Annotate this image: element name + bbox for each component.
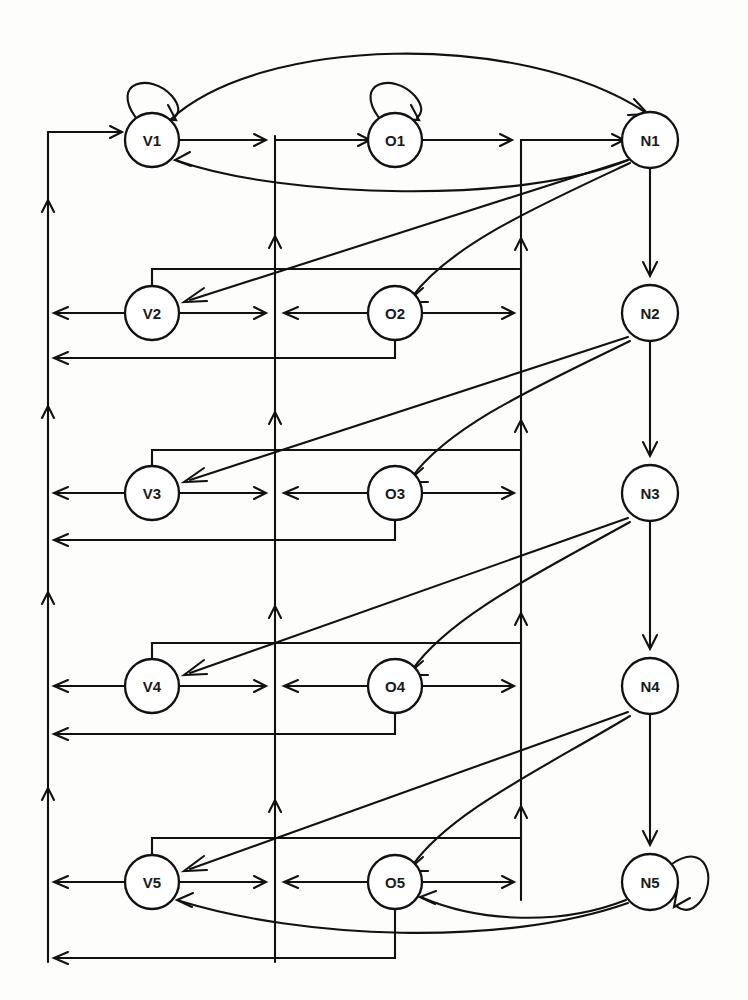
- node-O4[interactable]: O4: [368, 659, 422, 713]
- node-V1[interactable]: V1: [125, 113, 179, 167]
- node-label: V1: [143, 132, 161, 149]
- node-N3[interactable]: N3: [622, 465, 678, 521]
- node-label: N2: [640, 305, 659, 322]
- edge-n3-v4: [190, 518, 628, 673]
- node-V2[interactable]: V2: [125, 286, 179, 340]
- node-O3[interactable]: O3: [368, 466, 422, 520]
- edge-o5-to-left-bus: [56, 909, 395, 958]
- node-N2[interactable]: N2: [622, 285, 678, 341]
- node-label: O1: [385, 132, 405, 149]
- edge-o2-to-left-bus: [56, 340, 395, 358]
- node-label: V2: [143, 305, 161, 322]
- node-O2[interactable]: O2: [368, 286, 422, 340]
- node-V3[interactable]: V3: [125, 466, 179, 520]
- node-label: N1: [640, 132, 659, 149]
- node-O1[interactable]: O1: [368, 113, 422, 167]
- edge-o3-to-left-bus: [56, 520, 395, 540]
- node-label: V3: [143, 485, 161, 502]
- node-label: O5: [385, 874, 405, 891]
- edge-bus-to-v4-top: [152, 643, 521, 659]
- node-label: N5: [640, 874, 659, 891]
- node-label: N4: [640, 678, 660, 695]
- edge-v1-n1-arc: [170, 54, 645, 120]
- node-N4[interactable]: N4: [622, 658, 678, 714]
- node-label: N3: [640, 485, 659, 502]
- node-V4[interactable]: V4: [125, 659, 179, 713]
- row-5-edges: [54, 712, 630, 964]
- node-label: O4: [385, 678, 406, 695]
- edge-n4-v5: [190, 712, 628, 869]
- edge-n5-o5: [423, 898, 626, 918]
- node-label: O3: [385, 485, 405, 502]
- right-bus: [515, 140, 527, 900]
- edge-o4-to-left-bus: [56, 713, 395, 734]
- diagram-canvas: V1 O1 N1 V2 O2 N2 V3 O3: [0, 0, 748, 1000]
- graph-svg: V1 O1 N1 V2 O2 N2 V3 O3: [0, 0, 748, 1000]
- edge-bus-to-v3-top: [152, 450, 521, 466]
- node-O5[interactable]: O5: [368, 855, 422, 909]
- node-N1[interactable]: N1: [622, 112, 678, 168]
- left-bus: [42, 126, 122, 962]
- node-label: O2: [385, 305, 405, 322]
- node-N5[interactable]: N5: [622, 854, 678, 910]
- edge-bus-to-v5-top: [152, 838, 521, 855]
- node-label: V4: [143, 678, 162, 695]
- edge-n1-v2: [190, 160, 628, 300]
- edge-bus-to-v2-top: [152, 269, 521, 286]
- node-V5[interactable]: V5: [125, 855, 179, 909]
- node-label: V5: [143, 874, 161, 891]
